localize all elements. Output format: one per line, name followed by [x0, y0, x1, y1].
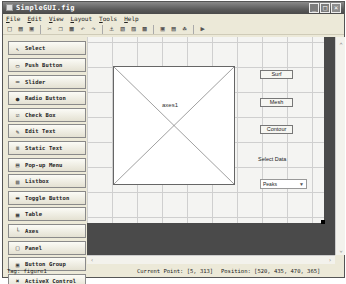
- property-inspector-icon[interactable]: ▤: [169, 25, 178, 34]
- guide-window: SimpleGUI.fig _ □ × File Edit View Layou…: [2, 1, 345, 278]
- tab-order-icon[interactable]: ▨: [129, 25, 138, 34]
- data-popup-menu[interactable]: Peaks ▼: [260, 179, 307, 189]
- align-icon[interactable]: ⚓: [107, 25, 116, 34]
- layout-area[interactable]: axes1 Surf Mesh Contour Select Data Peak…: [87, 37, 335, 255]
- figure-resize-handle[interactable]: [321, 220, 325, 224]
- palette-push-button[interactable]: ▭Push Button: [8, 58, 86, 72]
- menu-layout[interactable]: Layout: [70, 15, 92, 23]
- axes-label: axes1: [162, 102, 178, 108]
- palette-radio-button[interactable]: ●Radio Button: [8, 91, 86, 105]
- mesh-button[interactable]: Mesh: [260, 98, 293, 107]
- status-bar: Tag: figure1 Current Point: [5, 313] Pos…: [3, 266, 344, 277]
- palette-panel[interactable]: □Panel: [8, 241, 86, 255]
- slider-icon: ═: [13, 78, 22, 85]
- menu-file[interactable]: File: [6, 15, 20, 23]
- palette-static-text[interactable]: ≡Static Text: [8, 141, 86, 155]
- edit-text-icon: ✎: [13, 128, 22, 135]
- toolbar: □ ▤ ▣ ✂ ❐ ▦ ↶ ↷ ⚓ ▧ ▨ ▩ ▣ ▤ ☘ ▶: [3, 24, 344, 35]
- palette-select[interactable]: ↖Select: [8, 41, 86, 55]
- axes-placeholder-cross: [114, 67, 234, 184]
- axes-icon: └: [13, 227, 22, 234]
- palette-listbox[interactable]: ▥Listbox: [8, 174, 86, 188]
- minimize-button[interactable]: _: [309, 3, 319, 13]
- toolbar-separator: [193, 25, 194, 34]
- surf-button[interactable]: Surf: [260, 70, 293, 79]
- copy-icon[interactable]: ❐: [56, 25, 65, 34]
- window-title: SimpleGUI.fig: [16, 4, 75, 12]
- horizontal-scrollbar[interactable]: ‹ ›: [87, 255, 335, 264]
- editor-icon[interactable]: ▣: [158, 25, 167, 34]
- menu-bar: File Edit View Layout Tools Help: [3, 15, 344, 23]
- figure-canvas[interactable]: axes1 Surf Mesh Contour Select Data Peak…: [87, 37, 324, 223]
- axes1[interactable]: axes1: [113, 66, 235, 185]
- scroll-left-icon[interactable]: ‹: [88, 256, 96, 264]
- menu-help[interactable]: Help: [124, 15, 138, 23]
- popup-value: Peaks: [263, 181, 277, 187]
- scroll-up-icon[interactable]: ⌃: [337, 41, 345, 49]
- palette-toggle-button[interactable]: ▬Toggle Button: [8, 191, 86, 205]
- contour-button[interactable]: Contour: [260, 125, 293, 134]
- status-position: Position: [520, 435, 470, 365]: [221, 266, 320, 277]
- cut-icon[interactable]: ✂: [45, 25, 54, 34]
- close-button[interactable]: ×: [331, 3, 341, 13]
- cursor-icon: ↖: [13, 45, 22, 52]
- menu-edit[interactable]: Edit: [27, 15, 41, 23]
- palette-table[interactable]: ▦Table: [8, 207, 86, 221]
- chevron-down-icon[interactable]: ▼: [298, 181, 305, 187]
- table-icon: ▦: [13, 211, 22, 218]
- toolbar-editor-icon[interactable]: ▩: [140, 25, 149, 34]
- toolbar-separator: [102, 25, 103, 34]
- radio-button-icon: ●: [13, 95, 22, 102]
- listbox-icon: ▥: [13, 178, 22, 185]
- toggle-button-icon: ▬: [13, 194, 22, 201]
- maximize-button[interactable]: □: [320, 3, 330, 13]
- new-icon[interactable]: □: [5, 25, 14, 34]
- toolbar-separator: [40, 25, 41, 34]
- save-icon[interactable]: ▣: [27, 25, 36, 34]
- app-icon: [6, 4, 13, 11]
- menu-view[interactable]: View: [49, 15, 63, 23]
- vertical-scrollbar[interactable]: ⌃ ⌄: [335, 37, 345, 255]
- menu-tools[interactable]: Tools: [99, 15, 117, 23]
- palette-slider[interactable]: ═Slider: [8, 75, 86, 89]
- palette-axes[interactable]: └Axes: [8, 224, 86, 238]
- select-data-label: Select Data: [258, 156, 286, 162]
- activex-icon: ✖: [13, 277, 22, 284]
- scroll-down-icon[interactable]: ⌄: [337, 246, 345, 254]
- component-palette: ↖Select ▭Push Button ═Slider ●Radio Butt…: [8, 41, 86, 284]
- palette-popup-menu[interactable]: ▤Pop-up Menu: [8, 158, 86, 172]
- undo-icon[interactable]: ↶: [78, 25, 87, 34]
- popup-menu-icon: ▤: [13, 161, 22, 168]
- run-icon[interactable]: ▶: [198, 25, 207, 34]
- redo-icon[interactable]: ↷: [89, 25, 98, 34]
- panel-icon: □: [13, 244, 22, 251]
- paste-icon[interactable]: ▦: [67, 25, 76, 34]
- push-button-icon: ▭: [13, 62, 22, 69]
- scroll-right-icon[interactable]: ›: [326, 256, 334, 264]
- object-browser-icon[interactable]: ☘: [180, 25, 189, 34]
- palette-edit-text[interactable]: ✎Edit Text: [8, 124, 86, 138]
- check-box-icon: ☑: [13, 111, 22, 118]
- open-icon[interactable]: ▤: [16, 25, 25, 34]
- palette-check-box[interactable]: ☑Check Box: [8, 108, 86, 122]
- menu-editor-icon[interactable]: ▧: [118, 25, 127, 34]
- static-text-icon: ≡: [13, 144, 22, 151]
- status-tag: Tag: figure1: [7, 266, 47, 277]
- status-current-point: Current Point: [5, 313]: [137, 266, 213, 277]
- toolbar-separator: [153, 25, 154, 34]
- title-bar: SimpleGUI.fig _ □ ×: [3, 2, 344, 14]
